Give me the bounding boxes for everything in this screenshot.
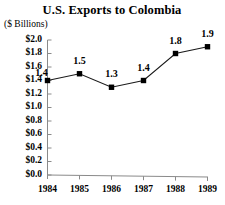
y-axis-ticks [48,40,52,175]
data-point-label: 1.5 [65,55,95,66]
data-point-label: 1.4 [129,62,159,73]
data-point-marker [141,78,146,83]
y-axis-tick-label: $0.2 [0,155,42,165]
data-point-label: 1.3 [97,68,127,79]
data-point-marker [45,78,50,83]
data-point-marker [205,44,210,49]
x-axis-tick-label: 1989 [188,184,225,194]
data-point-label: 1.8 [161,35,191,46]
data-point-marker [77,71,82,76]
y-axis-tick-label: $1.0 [0,101,42,111]
data-series-line [48,47,208,88]
x-axis-line [48,175,209,177]
data-point-label: 1.4 [27,67,57,78]
data-point-label: 1.9 [193,28,223,39]
y-axis-tick-label: $0.6 [0,128,42,138]
y-axis-tick-label: $0.0 [0,169,42,179]
y-axis-tick-label: $2.0 [0,34,42,44]
y-axis-tick-label: $1.2 [0,88,42,98]
chart-container: U.S. Exports to Colombia ($ Billions) $2… [0,0,224,205]
y-axis-tick-label: $1.8 [0,47,42,57]
data-point-marker [109,85,114,90]
y-axis-tick-label: $0.4 [0,142,42,152]
y-axis-tick-label: $0.8 [0,115,42,125]
data-point-marker [173,51,178,56]
